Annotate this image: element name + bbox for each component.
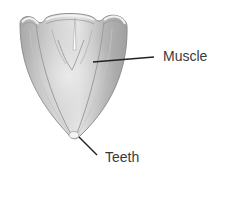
lantern-diagram bbox=[0, 0, 252, 223]
teeth-label: Teeth bbox=[105, 150, 139, 164]
teeth-tip bbox=[69, 132, 79, 139]
muscle-label: Muscle bbox=[163, 49, 207, 63]
lantern-body bbox=[20, 14, 127, 139]
teeth-leader-line bbox=[79, 137, 97, 155]
